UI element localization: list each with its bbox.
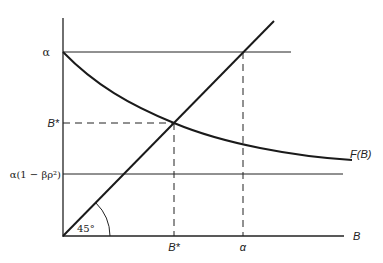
- f-of-b-curve: [63, 52, 352, 160]
- x-tick-b-star: B*: [168, 241, 180, 253]
- angle-label: 45°: [77, 223, 95, 234]
- y-label-alpha: α: [43, 46, 51, 59]
- y-label-b-star: B*: [47, 117, 59, 129]
- angle-arc: [96, 203, 110, 236]
- x-tick-alpha: α: [240, 241, 247, 253]
- y-label-lower-bound: α(1 − βρ²): [10, 169, 61, 180]
- x-axis-label: B: [353, 230, 360, 242]
- diagram-canvas: α B* α(1 − βρ²) B* α B F(B) 45°: [0, 0, 383, 263]
- forty-five-degree-line: [63, 21, 274, 236]
- curve-label: F(B): [350, 148, 372, 160]
